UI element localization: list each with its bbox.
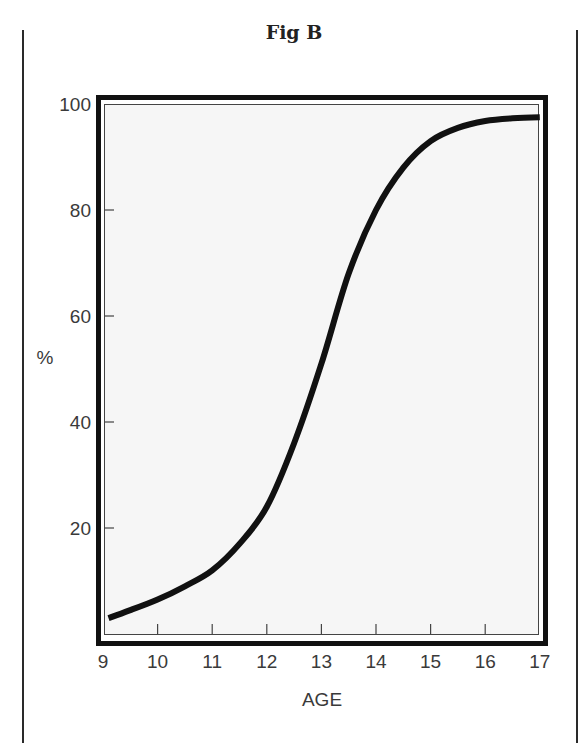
y-tick-label: 80: [70, 200, 91, 221]
x-tick-label: 14: [365, 651, 387, 672]
x-tick-label: 13: [311, 651, 332, 672]
x-tick-label: 11: [202, 651, 222, 672]
x-tick-label: 16: [475, 651, 496, 672]
y-tick-label: 100: [59, 94, 91, 115]
x-tick-label: 17: [529, 651, 550, 672]
s-curve-chart: 91011121314151617 20406080100 AGE %: [0, 0, 588, 743]
y-tick-label: 40: [70, 412, 91, 433]
x-axis-tick-labels: 91011121314151617: [98, 651, 551, 672]
x-tick-label: 10: [147, 651, 168, 672]
x-tick-label: 9: [98, 651, 109, 672]
x-axis-label: AGE: [302, 689, 342, 710]
x-tick-label: 12: [256, 651, 277, 672]
y-tick-label: 60: [70, 306, 91, 327]
y-tick-label: 20: [70, 518, 91, 539]
y-axis-label: %: [37, 347, 54, 368]
y-axis-tick-labels: 20406080100: [59, 94, 91, 539]
x-tick-label: 15: [420, 651, 441, 672]
